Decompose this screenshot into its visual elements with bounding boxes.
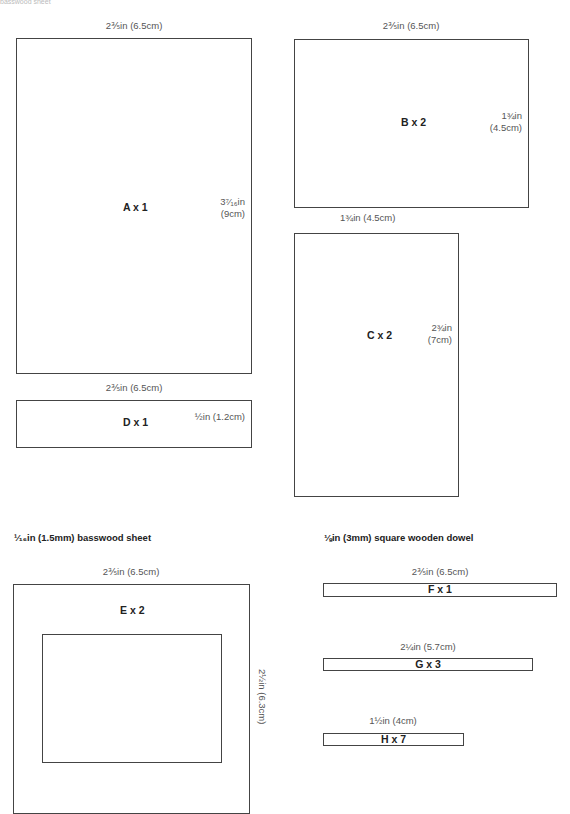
cropped-header-fragment: basswood sheet: [0, 0, 51, 5]
piece-c-height-in: 2¾in: [428, 322, 452, 334]
piece-d-outline: D x 1 ½in (1.2cm): [16, 400, 252, 448]
dowel-section-header: ⅛in (3mm) square wooden dowel: [324, 532, 473, 543]
piece-e-outer-outline: E x 2: [13, 584, 250, 814]
piece-c-outline: C x 2 2¾in (7cm): [294, 233, 459, 497]
piece-c-height-cm: (7cm): [428, 334, 452, 346]
piece-d-width: 2⅗in (6.5cm): [106, 382, 163, 394]
piece-h-length: 1½in (4cm): [369, 715, 417, 727]
piece-g-length: 2¼in (5.7cm): [400, 641, 455, 653]
piece-a-height-cm: (9cm): [220, 208, 245, 220]
piece-c-label: C x 2: [367, 329, 392, 341]
piece-b-label: B x 2: [401, 116, 426, 128]
piece-h-label: H x 7: [381, 733, 406, 745]
piece-e-height: 2½in (6.3cm): [257, 669, 268, 724]
piece-b-height-cm: (4.5cm): [490, 122, 522, 134]
piece-e-label: E x 2: [120, 604, 145, 616]
piece-d-label: D x 1: [123, 416, 148, 428]
piece-a-height: 3⁷⁄₁₆in (9cm): [220, 196, 245, 220]
piece-b-width: 2⅗in (6.5cm): [383, 20, 440, 32]
basswood-section-header: ¹⁄₁₆in (1.5mm) basswood sheet: [14, 532, 151, 543]
piece-a-label: A x 1: [123, 201, 148, 213]
piece-f-length: 2⅗in (6.5cm): [412, 566, 469, 578]
piece-e-inner-cutout: [42, 634, 222, 763]
piece-a-width: 2⅗in (6.5cm): [106, 20, 163, 32]
piece-c-height: 2¾in (7cm): [428, 322, 452, 346]
piece-g-label: G x 3: [415, 658, 441, 670]
piece-c-width: 1¾in (4.5cm): [340, 212, 395, 224]
piece-d-height: ½in (1.2cm): [195, 411, 245, 423]
piece-b-height-in: 1¾in: [490, 110, 522, 122]
piece-e-width: 2⅗in (6.5cm): [103, 566, 160, 578]
piece-a-height-in: 3⁷⁄₁₆in: [220, 196, 245, 208]
piece-f-label: F x 1: [428, 583, 452, 595]
piece-g-outline: G x 3: [323, 658, 533, 671]
piece-a-outline: A x 1 3⁷⁄₁₆in (9cm): [16, 38, 252, 374]
piece-b-outline: B x 2 1¾in (4.5cm): [294, 39, 529, 208]
piece-f-outline: F x 1: [323, 583, 557, 597]
piece-b-height: 1¾in (4.5cm): [490, 110, 522, 134]
piece-h-outline: H x 7: [323, 733, 464, 746]
